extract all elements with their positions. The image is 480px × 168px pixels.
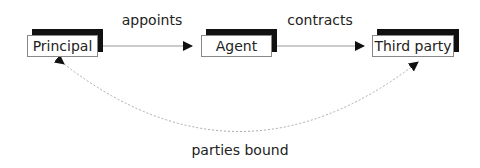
edge-label-appoints: appoints — [122, 12, 182, 28]
node-label: Agent — [201, 35, 272, 57]
node-principal: Principal — [27, 35, 98, 57]
node-label: Principal — [27, 35, 98, 57]
node-agent: Agent — [201, 35, 272, 57]
node-third-party: Third party — [372, 35, 454, 57]
node-label: Third party — [372, 35, 454, 57]
arc-parties-bound — [64, 62, 418, 132]
edge-label-contracts: contracts — [287, 12, 352, 28]
edge-label-parties-bound: parties bound — [191, 142, 288, 158]
